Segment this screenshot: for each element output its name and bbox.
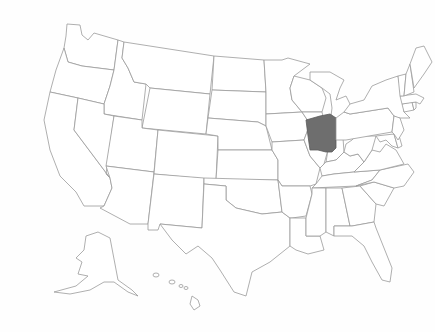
state-new-mexico[interactable] bbox=[148, 174, 204, 230]
state-iowa[interactable] bbox=[266, 112, 310, 142]
us-state-map bbox=[0, 0, 435, 332]
state-florida[interactable] bbox=[334, 222, 392, 282]
state-kansas[interactable] bbox=[216, 150, 278, 180]
state-arkansas[interactable] bbox=[278, 180, 312, 218]
state-alaska[interactable] bbox=[54, 232, 138, 296]
state-north-dakota[interactable] bbox=[212, 56, 266, 92]
state-hawaii[interactable] bbox=[153, 273, 200, 310]
state-maine[interactable] bbox=[410, 46, 432, 88]
state-wyoming[interactable] bbox=[142, 88, 210, 134]
state-ohio[interactable] bbox=[306, 114, 336, 152]
state-colorado[interactable] bbox=[154, 130, 218, 180]
